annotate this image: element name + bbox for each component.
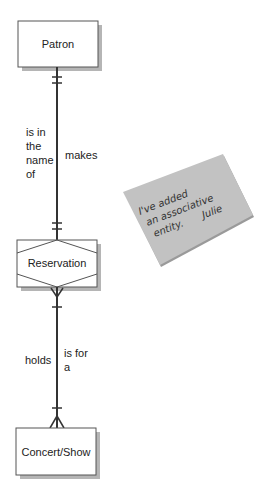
er-diagram: Patron is in the name of makes Reserva	[0, 0, 276, 499]
relationship-reservation-concert[interactable]: holds is for a	[25, 287, 91, 428]
relationship-patron-reservation[interactable]: is in the name of makes	[26, 67, 98, 240]
entity-label-concert-show: Concert/Show	[21, 446, 90, 458]
relationship-label-left: holds	[25, 354, 52, 366]
relationship-label-right: makes	[65, 149, 98, 161]
entity-patron[interactable]: Patron	[18, 21, 102, 71]
entity-reservation[interactable]: Reservation	[17, 240, 101, 291]
relationship-label-right: is for a	[64, 347, 91, 373]
entity-label-reservation: Reservation	[28, 257, 87, 269]
sticky-note: I've added an associative entity. Julie	[123, 154, 254, 267]
relationship-label-left: is in the name of	[26, 126, 57, 180]
entity-concert-show[interactable]: Concert/Show	[16, 428, 100, 479]
entity-label-patron: Patron	[42, 38, 74, 50]
